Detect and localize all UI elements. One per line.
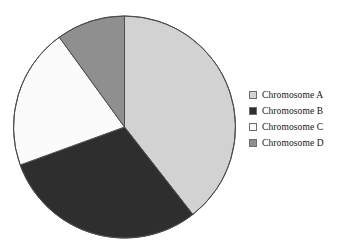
legend-label-chromosome-a: Chromosome A — [262, 90, 323, 101]
legend-item-chromosome-a[interactable]: Chromosome A — [249, 87, 349, 103]
pie-chart-plot-area — [12, 14, 237, 240]
pie-chart-svg — [12, 14, 237, 240]
chart-legend: Chromosome A Chromosome B Chromosome C C… — [249, 87, 349, 151]
legend-label-chromosome-b: Chromosome B — [262, 106, 323, 117]
legend-item-chromosome-c[interactable]: Chromosome C — [249, 119, 349, 135]
legend-swatch-icon-chromosome-c — [249, 123, 257, 131]
legend-swatch-icon-chromosome-a — [249, 91, 257, 99]
legend-swatch-icon-chromosome-d — [249, 139, 257, 147]
pie-chart-figure: Chromosome A Chromosome B Chromosome C C… — [0, 0, 350, 251]
legend-item-chromosome-b[interactable]: Chromosome B — [249, 103, 349, 119]
legend-swatch-icon-chromosome-b — [249, 107, 257, 115]
legend-item-chromosome-d[interactable]: Chromosome D — [249, 135, 349, 151]
legend-label-chromosome-d: Chromosome D — [262, 138, 324, 149]
legend-label-chromosome-c: Chromosome C — [262, 122, 323, 133]
pie-slice-group — [13, 16, 235, 238]
